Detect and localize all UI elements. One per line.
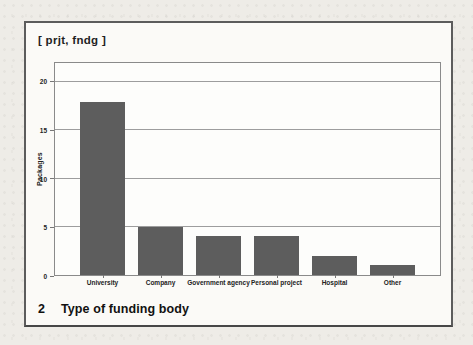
bar-slot: Government agency [196, 63, 241, 275]
bar [80, 102, 125, 275]
bar-slot: Hospital [312, 63, 357, 275]
x-tick-mark [161, 275, 162, 278]
bar [138, 227, 183, 275]
plot-area: UniversityCompanyGovernment agencyPerson… [54, 62, 441, 276]
x-tick-label: Other [384, 279, 401, 286]
x-tick-mark [393, 275, 394, 278]
x-tick-mark [103, 275, 104, 278]
x-tick-mark [277, 275, 278, 278]
x-tick-label: Government agency [187, 279, 250, 286]
bar-slot: Other [370, 63, 415, 275]
caption-number: 2 [38, 302, 45, 316]
bar [370, 265, 415, 275]
y-tick-label: 0 [43, 273, 47, 280]
bar [196, 236, 241, 275]
bar-slot: Personal project [254, 63, 299, 275]
y-tick-label: 10 [40, 175, 47, 182]
bar [312, 256, 357, 275]
x-tick-label: Personal project [251, 279, 302, 286]
bar [254, 236, 299, 275]
x-tick-label: University [87, 279, 118, 286]
bar-slot: Company [138, 63, 183, 275]
y-axis-ticks: 05101520 [26, 62, 54, 276]
y-tick-label: 15 [40, 127, 47, 134]
bars-container: UniversityCompanyGovernment agencyPerson… [55, 63, 440, 275]
figure-frame: [ prjt, fndg ] Packages 05101520 Univers… [24, 21, 453, 327]
x-tick-mark [335, 275, 336, 278]
x-tick-label: Company [146, 279, 176, 286]
bar-slot: University [80, 63, 125, 275]
figure-tag-label: [ prjt, fndg ] [38, 34, 106, 46]
x-tick-mark [219, 275, 220, 278]
scanned-page: [ prjt, fndg ] Packages 05101520 Univers… [0, 0, 473, 345]
y-tick-label: 5 [43, 224, 47, 231]
figure-caption: 2 Type of funding body [38, 302, 189, 316]
y-tick-label: 20 [40, 78, 47, 85]
x-tick-label: Hospital [322, 279, 348, 286]
caption-text: Type of funding body [61, 302, 189, 316]
